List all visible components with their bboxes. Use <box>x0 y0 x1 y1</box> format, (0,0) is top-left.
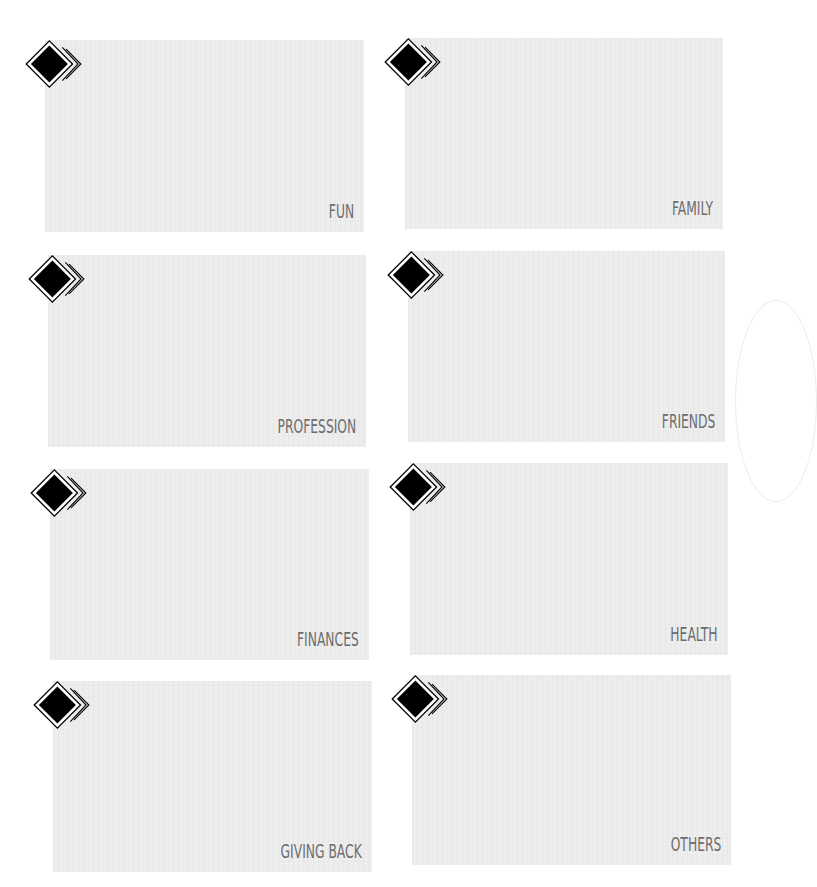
card-label: OTHERS <box>670 833 721 855</box>
diamond-icon <box>386 250 446 300</box>
card-family[interactable]: FAMILY <box>405 38 723 229</box>
card-profession[interactable]: PROFESSION <box>48 255 366 447</box>
diamond-icon <box>29 468 89 518</box>
diamond-icon <box>27 254 87 304</box>
card-giving-back[interactable]: GIVING BACK <box>53 681 372 872</box>
card-label: GIVING BACK <box>281 840 362 862</box>
diamond-icon <box>24 39 84 89</box>
card-label: FRIENDS <box>661 410 715 432</box>
card-label: PROFESSION <box>277 415 356 437</box>
card-label: FAMILY <box>672 197 713 219</box>
card-finances[interactable]: FINANCES <box>50 469 369 660</box>
card-health[interactable]: HEALTH <box>410 463 728 655</box>
decorative-arc <box>735 300 817 502</box>
card-label: FINANCES <box>297 628 359 650</box>
card-others[interactable]: OTHERS <box>412 675 731 865</box>
diamond-icon <box>32 680 92 730</box>
card-label: FUN <box>329 200 354 222</box>
diamond-icon <box>388 462 448 512</box>
card-fun[interactable]: FUN <box>45 40 364 232</box>
diamond-icon <box>383 37 443 87</box>
card-label: HEALTH <box>671 623 718 645</box>
card-friends[interactable]: FRIENDS <box>408 251 725 442</box>
diamond-icon <box>390 674 450 724</box>
